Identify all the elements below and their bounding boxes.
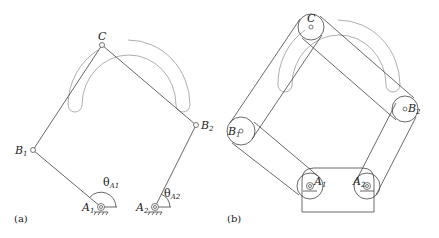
workspace-inner-arc xyxy=(292,35,386,85)
workspace-left-cap xyxy=(278,85,292,92)
label-c: C xyxy=(98,30,107,43)
joint-b1 xyxy=(31,148,36,153)
label-a1: A1 xyxy=(81,201,94,215)
workspace-right-cap xyxy=(386,85,400,92)
label-theta-a2: θA2 xyxy=(164,187,181,201)
label-b1: B1 xyxy=(14,144,28,158)
ground-pivot-a1-icon xyxy=(94,204,108,216)
panel-b: C B1 B2 A1 A2 (b) xyxy=(227,12,421,224)
label-b2: B2 xyxy=(200,119,214,133)
link-body-c-b2 xyxy=(302,16,414,120)
panel-a: C B1 B2 A1 A2 θA1 θA2 (a) xyxy=(14,30,214,224)
joint-b2 xyxy=(194,123,199,128)
ground-pivot-a2-icon xyxy=(148,204,162,216)
label-b2: B2 xyxy=(407,102,421,116)
label-a2: A2 xyxy=(135,201,149,215)
joint-b2 xyxy=(403,107,407,111)
base-frame xyxy=(302,168,374,212)
workspace-outer-arc-left xyxy=(278,30,305,85)
label-theta-a1: θA1 xyxy=(103,176,119,190)
caption-a: (a) xyxy=(14,213,28,224)
label-c: C xyxy=(307,12,316,25)
label-b1: B1 xyxy=(227,125,241,139)
workspace-outer-arc xyxy=(338,20,400,85)
caption-b: (b) xyxy=(227,213,241,224)
label-a1: A1 xyxy=(313,175,326,189)
link-c-b2 xyxy=(102,45,196,125)
workspace-right-cap xyxy=(176,105,190,112)
five-bar-mechanism-figure: C B1 B2 A1 A2 θA1 θA2 (a) xyxy=(0,0,439,238)
link-body-a1-b1 xyxy=(232,122,318,195)
workspace-inner-arc xyxy=(82,55,176,105)
label-a2: A2 xyxy=(352,175,366,189)
workspace-outer-arc xyxy=(128,40,190,105)
joint-c xyxy=(309,25,313,29)
link-body-b1-c xyxy=(230,19,322,139)
workspace-left-cap xyxy=(68,105,82,112)
link-b1-c xyxy=(33,45,102,150)
joint-c xyxy=(100,43,105,48)
link-a1-b1 xyxy=(33,150,101,207)
